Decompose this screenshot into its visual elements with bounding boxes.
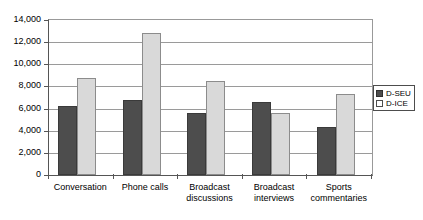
y-axis-tick-label: 14,000 — [0, 15, 41, 24]
legend-item-label: D-ICE — [386, 99, 408, 108]
bar-group — [178, 20, 243, 175]
bar-d-ice[interactable] — [206, 81, 225, 175]
y-axis-tick-label: 12,000 — [0, 37, 41, 46]
legend-item[interactable]: D-ICE — [376, 98, 411, 108]
x-axis-tick-marks — [48, 174, 372, 180]
y-axis-tick-label: 4,000 — [0, 125, 41, 134]
bars-layer — [49, 20, 372, 175]
y-axis-tick-label: 10,000 — [0, 59, 41, 68]
legend-swatch-icon — [376, 90, 383, 97]
y-axis-tick-label: 6,000 — [0, 103, 41, 112]
bar-group — [307, 20, 372, 175]
x-axis-tick-mark — [48, 174, 49, 179]
y-axis-tick-label: 8,000 — [0, 81, 41, 90]
x-axis-category-label-line: Sports — [298, 182, 379, 193]
x-axis-labels: ConversationPhone callsBroadcastdiscussi… — [48, 182, 372, 220]
bar-group — [114, 20, 179, 175]
x-axis-tick-mark — [371, 174, 372, 179]
x-axis-tick-mark — [177, 174, 178, 179]
bar-d-ice[interactable] — [142, 33, 161, 175]
bar-group — [243, 20, 308, 175]
x-axis-category-label: Sportscommentaries — [298, 182, 379, 204]
bar-chart: 02,0004,0006,0008,00010,00012,00014,000 … — [0, 0, 423, 220]
x-axis-category-label-line: commentaries — [298, 193, 379, 204]
y-axis-tick-label: 0 — [0, 170, 41, 179]
bar-group — [49, 20, 114, 175]
x-axis-tick-mark — [306, 174, 307, 179]
legend-swatch-icon — [376, 100, 383, 107]
chart-legend: D-SEUD-ICE — [373, 85, 415, 111]
bar-d-ice[interactable] — [77, 78, 96, 175]
legend-item[interactable]: D-SEU — [376, 88, 411, 98]
bar-d-seu[interactable] — [317, 127, 336, 175]
x-axis-tick-mark — [113, 174, 114, 179]
bar-d-seu[interactable] — [187, 113, 206, 175]
y-axis-labels: 02,0004,0006,0008,00010,00012,00014,000 — [0, 0, 41, 220]
x-axis-tick-mark — [242, 174, 243, 179]
bar-d-ice[interactable] — [271, 113, 290, 175]
legend-item-label: D-SEU — [386, 89, 411, 98]
bar-d-ice[interactable] — [336, 94, 355, 175]
y-axis-tick-label: 2,000 — [0, 147, 41, 156]
bar-d-seu[interactable] — [58, 106, 77, 175]
plot-area — [48, 19, 373, 176]
bar-d-seu[interactable] — [123, 100, 142, 175]
bar-d-seu[interactable] — [252, 102, 271, 175]
